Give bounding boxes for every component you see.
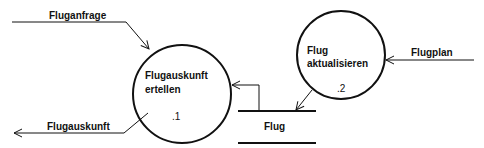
process-1-title-line2: ertellen (145, 83, 181, 96)
flow-process2-to-store-arrow (296, 90, 312, 110)
process-2-title-line2: aktualisieren (307, 57, 368, 70)
data-store-label: Flug (264, 120, 285, 133)
process-1-title-line1: Flugauskunft (145, 69, 208, 82)
flow-label-flugauskunft: Flugauskunft (47, 120, 110, 133)
flow-label-fluganfrage: Fluganfrage (49, 9, 106, 22)
process-2-title-line1: Flug (307, 44, 328, 57)
flow-label-flugplan: Flugplan (411, 46, 453, 59)
process-1-number: .1 (172, 110, 180, 123)
flow-fluganfrage-arrow (12, 22, 149, 49)
flow-store-to-process1-arrow (232, 85, 259, 111)
process-2-number: .2 (337, 82, 345, 95)
